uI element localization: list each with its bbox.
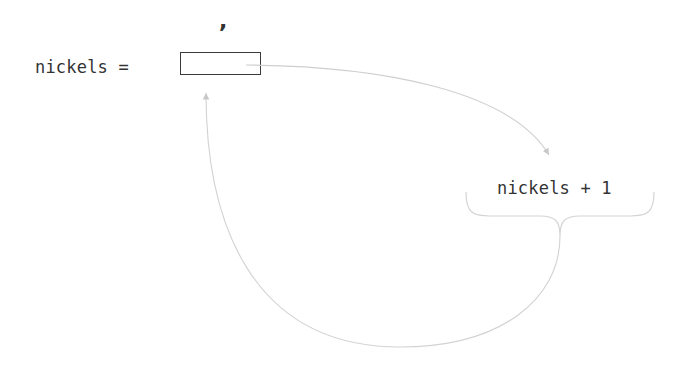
diagram-connectors	[0, 0, 679, 386]
curly-brace-icon	[466, 192, 654, 236]
arrow-box-to-expression	[246, 65, 549, 155]
arrow-expression-to-box	[206, 93, 560, 347]
